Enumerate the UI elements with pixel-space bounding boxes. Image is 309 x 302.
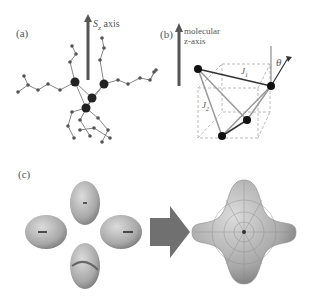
theta-label: θ xyxy=(276,56,281,68)
anisotropy-surfaces xyxy=(0,160,309,302)
surface-right xyxy=(100,215,142,249)
tetrahedron-diagram xyxy=(150,0,309,150)
panel-c: (c) xyxy=(0,160,309,302)
surface-bottom xyxy=(70,243,100,289)
molecule-structure-diagram xyxy=(0,0,160,150)
coupling-j2-label: J2 xyxy=(202,100,209,112)
panel-a: (a) xyxy=(0,0,160,150)
molecular-axis-label-line2: z-axis xyxy=(184,36,206,46)
panel-b: (b) molecular z-axis J1 J2 xyxy=(150,0,309,150)
coupling-j1-label: J1 xyxy=(241,66,248,78)
molecular-axis-label-line1: molecular xyxy=(184,26,220,36)
sz-axis-label: Sz axis xyxy=(93,18,120,32)
